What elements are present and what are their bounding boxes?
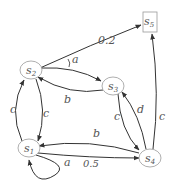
angle-mark: [68, 59, 70, 67]
edge-s2-s1: [36, 79, 43, 141]
edge-s3-s4: [118, 94, 139, 150]
label-s3-s4: c: [114, 110, 120, 123]
label-s1-s2: c: [10, 103, 16, 116]
state-diagram: 0.2 a b c c c d c b 0.5 a s2 s3 s1 s4 s5: [0, 0, 176, 189]
edge-s4-s5: [152, 34, 156, 149]
label-s2-s1: c: [43, 107, 49, 120]
edge-s3-s2: [38, 77, 103, 91]
node-s2: s2: [20, 61, 42, 79]
label-s2-s3: a: [72, 53, 79, 66]
node-s1: s1: [18, 139, 40, 157]
node-s4: s4: [139, 149, 161, 167]
edge-s1-s1: [29, 155, 60, 179]
edge-s2-s3: [40, 68, 101, 81]
edge-s1-s2: [15, 80, 24, 141]
edge-s4-s3: [122, 92, 146, 149]
node-s3: s3: [102, 77, 124, 95]
label-s4-s1: b: [93, 127, 100, 140]
node-s5: s5: [143, 12, 157, 32]
edge-s4-s1: [39, 143, 139, 153]
label-s1-s1: a: [64, 156, 71, 169]
label-s4-s5: c: [159, 110, 165, 123]
label-s1-s4: 0.5: [83, 158, 99, 169]
label-s4-s3: d: [137, 103, 144, 116]
label-s3-s2: b: [64, 93, 71, 106]
edge-s2-s5: [40, 25, 141, 68]
label-s2-s5: 0.2: [98, 34, 116, 47]
